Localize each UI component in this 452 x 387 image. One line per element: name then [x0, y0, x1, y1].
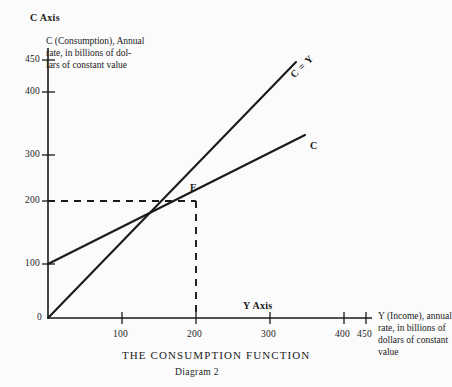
y-tick-label-100: 100: [25, 258, 40, 269]
figure-caption-subtitle: Diagram 2: [175, 367, 219, 378]
figure-caption-title: THE CONSUMPTION FUNCTION: [122, 349, 310, 362]
y-axis-name: Y Axis: [243, 300, 273, 312]
c-equals-y-line: [48, 62, 296, 318]
y-tick-label-300: 300: [25, 149, 40, 160]
c-axis-name: C Axis: [30, 12, 60, 24]
y-tick-label-400: 400: [25, 86, 40, 97]
x-tick-label-200: 200: [187, 329, 202, 340]
y-tick-label-200: 200: [25, 195, 40, 206]
y-tick-label-0: 0: [37, 312, 42, 323]
x-tick-label-100: 100: [113, 329, 128, 340]
x-tick-label-300: 300: [261, 329, 276, 340]
c-curve-label: C: [310, 140, 318, 152]
equilibrium-point-label: E: [190, 182, 197, 194]
x-tick-label-400: 400: [335, 329, 350, 340]
c-axis-description: C (Consumption), Annual rate, in billion…: [46, 36, 144, 72]
x-tick-label-450: 450: [357, 329, 372, 340]
consumption-function-line: [48, 135, 305, 264]
y-tick-label-450: 450: [25, 54, 40, 65]
y-axis-description: Y (Income), annual rate, in billions of …: [378, 311, 452, 359]
